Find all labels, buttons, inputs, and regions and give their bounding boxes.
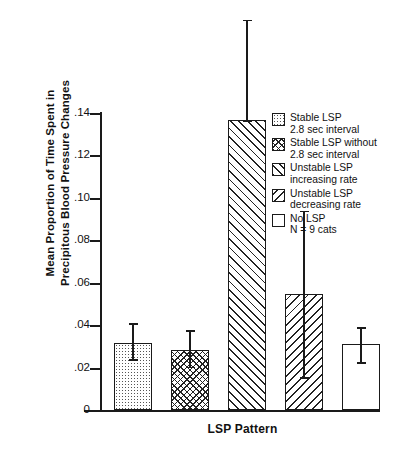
error-bar-cap-lower bbox=[357, 362, 366, 364]
legend-label-line1: Unstable LSP bbox=[290, 162, 358, 174]
legend-label-line2: 2.8 sec interval bbox=[290, 124, 359, 136]
error-bar-line bbox=[246, 20, 248, 121]
error-bar-cap-upper bbox=[357, 327, 366, 329]
legend-label-line1: Stable LSP bbox=[290, 112, 359, 124]
error-bar-cap-lower bbox=[129, 359, 138, 361]
legend-item-stable-lsp[interactable]: Stable LSP 2.8 sec interval bbox=[272, 112, 415, 135]
legend-label-line1: Unstable LSP bbox=[290, 188, 361, 200]
error-bar-line bbox=[360, 327, 362, 362]
error-bar-cap-upper bbox=[243, 20, 252, 22]
legend-swatch-crosshatch-icon bbox=[272, 138, 285, 151]
legend-swatch-dotted-icon bbox=[272, 113, 285, 126]
error-bar-cap-upper bbox=[129, 323, 138, 325]
legend-item-no-lsp[interactable]: No LSP N = 9 cats bbox=[272, 213, 415, 236]
legend-label-line2: decreasing rate bbox=[290, 199, 361, 211]
error-bar-cap-lower bbox=[186, 367, 195, 369]
bar-chart-figure: Mean Proportion of Time Spent in Precipi… bbox=[0, 0, 415, 476]
x-axis-label: LSP Pattern bbox=[100, 422, 385, 436]
legend-label-line2: 2.8 sec interval bbox=[290, 149, 377, 161]
legend-label-line2: increasing rate bbox=[290, 174, 358, 186]
legend-item-unstable-increasing[interactable]: Unstable LSP increasing rate bbox=[272, 162, 415, 185]
legend-swatch-diagonal-backward-icon bbox=[272, 189, 285, 202]
legend-label-line1: No LSP bbox=[290, 213, 337, 225]
error-bar-cap-lower bbox=[300, 377, 309, 379]
error-bar-cap-upper bbox=[186, 330, 195, 332]
error-bar-cap-lower bbox=[243, 120, 252, 122]
error-bar-line bbox=[189, 330, 191, 366]
bar-unstable-lsp-increasing[interactable] bbox=[228, 120, 266, 410]
legend-swatch-blank-icon bbox=[272, 214, 285, 227]
legend-sample-size: N = 9 cats bbox=[290, 224, 337, 236]
chart-legend: Stable LSP 2.8 sec interval Stable LSP w… bbox=[272, 112, 415, 238]
legend-item-stable-lsp-without[interactable]: Stable LSP without 2.8 sec interval bbox=[272, 137, 415, 160]
legend-swatch-diagonal-forward-icon bbox=[272, 163, 285, 176]
legend-label-line1: Stable LSP without bbox=[290, 137, 377, 149]
error-bar-line bbox=[132, 323, 134, 359]
legend-item-unstable-decreasing[interactable]: Unstable LSP decreasing rate bbox=[272, 188, 415, 211]
